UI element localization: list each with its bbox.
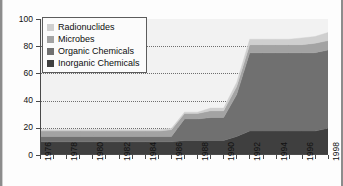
- y-axis: 020406080100: [8, 4, 40, 156]
- x-tick-mark-1994: [276, 155, 277, 159]
- x-tick-mark-1981: [105, 155, 106, 159]
- y-tick-label-60: 60: [24, 69, 33, 78]
- legend-swatch-icon: [47, 60, 54, 67]
- x-tick-label-1996: 1996: [306, 142, 315, 161]
- x-tick-mark-1997: [315, 155, 316, 159]
- x-tick-label-1992: 1992: [253, 142, 262, 161]
- x-tick-label-1986: 1986: [175, 142, 184, 161]
- y-tick-label-0: 0: [28, 151, 33, 160]
- legend-swatch-icon: [47, 36, 54, 43]
- x-tick-label-1988: 1988: [201, 142, 210, 161]
- chart-legend: RadionuclidesMicrobesOrganic ChemicalsIn…: [42, 17, 147, 73]
- y-tick-label-40: 40: [24, 96, 33, 105]
- x-tick-label-1990: 1990: [227, 142, 236, 161]
- x-tick-mark-1976: [40, 155, 41, 159]
- x-tick-label-1994: 1994: [280, 142, 289, 161]
- x-tick-label-1984: 1984: [149, 142, 158, 161]
- figure-frame: 020406080100 197619781980198219841986198…: [0, 0, 343, 186]
- x-tick-mark-1990: [223, 155, 224, 159]
- legend-item-microbes: Microbes: [47, 33, 140, 45]
- legend-label: Microbes: [58, 35, 95, 44]
- x-tick-mark-1996: [302, 155, 303, 159]
- x-tick-mark-1986: [171, 155, 172, 159]
- legend-item-radionuclides: Radionuclides: [47, 21, 140, 33]
- x-tick-mark-1993: [263, 155, 264, 159]
- x-tick-label-1982: 1982: [123, 142, 132, 161]
- legend-item-inorganic-chemicals: Inorganic Chemicals: [47, 57, 140, 69]
- x-axis: 1976197819801982198419861988199019921994…: [40, 155, 329, 186]
- stacked-area-chart: 020406080100 197619781980198219841986198…: [8, 4, 339, 182]
- y-tick-label-80: 80: [24, 42, 33, 51]
- x-tick-label-1976: 1976: [44, 142, 53, 161]
- legend-label: Organic Chemicals: [58, 47, 134, 56]
- legend-item-organic-chemicals: Organic Chemicals: [47, 45, 140, 57]
- x-tick-mark-1977: [53, 155, 54, 159]
- x-tick-label-1978: 1978: [70, 142, 79, 161]
- x-tick-mark-1987: [184, 155, 185, 159]
- x-tick-mark-1978: [66, 155, 67, 159]
- x-tick-mark-1984: [145, 155, 146, 159]
- x-tick-mark-1989: [210, 155, 211, 159]
- legend-swatch-icon: [47, 48, 54, 55]
- x-tick-mark-1998: [328, 155, 329, 159]
- x-tick-label-1998: 1998: [332, 142, 341, 161]
- x-tick-mark-1982: [119, 155, 120, 159]
- x-tick-mark-1992: [249, 155, 250, 159]
- x-tick-label-1980: 1980: [96, 142, 105, 161]
- legend-label: Radionuclides: [58, 23, 115, 32]
- y-tick-label-20: 20: [24, 123, 33, 132]
- x-tick-mark-1988: [197, 155, 198, 159]
- x-tick-mark-1980: [92, 155, 93, 159]
- x-tick-mark-1979: [79, 155, 80, 159]
- legend-label: Inorganic Chemicals: [58, 59, 140, 68]
- y-tick-label-100: 100: [19, 15, 33, 24]
- x-tick-mark-1991: [236, 155, 237, 159]
- legend-swatch-icon: [47, 24, 54, 31]
